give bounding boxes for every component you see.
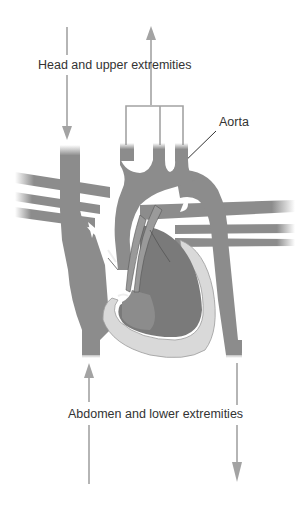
abdomen-label: Abdomen and lower extremities: [68, 407, 243, 421]
head-inflow-arrow: [62, 27, 72, 140]
vena-cava: [60, 145, 110, 358]
aorta-label: Aorta: [219, 115, 249, 129]
abdomen-outflow-arrow: [232, 363, 242, 482]
circulation-diagram: Head and upper extremities Aorta Abdomen…: [0, 0, 308, 515]
abdomen-inflow-arrow: [84, 363, 94, 484]
branch-connector: [126, 106, 183, 145]
head-label: Head and upper extremities: [38, 58, 192, 72]
heart: [88, 197, 215, 358]
